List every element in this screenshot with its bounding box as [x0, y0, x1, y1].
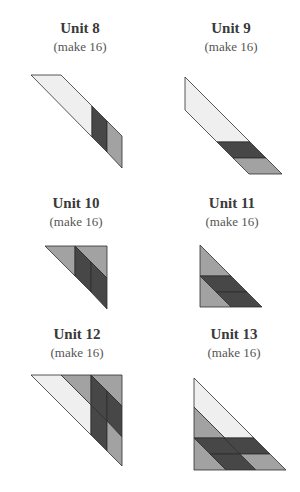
- unit-12-shape: [31, 375, 122, 466]
- unit-11-medium-top: [200, 245, 231, 276]
- unit-8-shape: [31, 75, 122, 168]
- unit-8-medium-strip: [107, 121, 122, 168]
- unit-11-shape: [200, 245, 262, 307]
- unit-10-shape: [45, 246, 107, 309]
- unit-13-shape: [194, 378, 286, 470]
- unit-9-shape: [185, 77, 282, 174]
- unit-10-medium-left: [45, 246, 75, 276]
- unit-9-dark-strip: [217, 142, 266, 158]
- unit-8-light-piece: [31, 75, 92, 137]
- quilt-units-diagram: [0, 0, 300, 492]
- unit-9-medium-strip: [233, 158, 282, 174]
- unit-8-dark-strip: [92, 106, 107, 152]
- unit-9-light-piece: [185, 77, 250, 142]
